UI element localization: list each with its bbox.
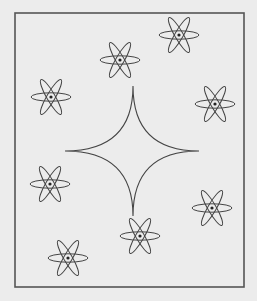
frame-border xyxy=(15,13,244,287)
four-point-star xyxy=(65,86,199,216)
flower-icon xyxy=(120,217,160,256)
flower-center xyxy=(138,234,141,237)
flower-center xyxy=(177,33,180,36)
flower-icon xyxy=(159,16,199,55)
flower-icon xyxy=(195,85,235,124)
flower-group xyxy=(30,16,235,278)
flower-center xyxy=(210,206,213,209)
flower-center xyxy=(118,58,121,61)
flower-icon xyxy=(192,189,232,228)
flower-icon xyxy=(30,165,70,204)
flower-icon xyxy=(48,239,88,278)
figure-canvas xyxy=(0,0,257,301)
flower-center xyxy=(49,95,52,98)
flower-icon xyxy=(100,41,140,80)
flower-icon xyxy=(31,78,71,117)
flower-center xyxy=(213,102,216,105)
flower-center xyxy=(48,182,51,185)
flower-center xyxy=(66,256,69,259)
